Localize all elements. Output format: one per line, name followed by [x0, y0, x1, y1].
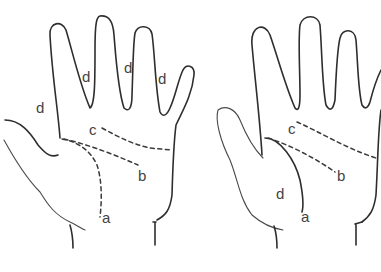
left-wrist-right — [153, 222, 156, 245]
left-wrist-left — [70, 225, 73, 248]
left-label-b: b — [138, 167, 146, 184]
left-label-c: c — [89, 121, 97, 138]
right-line-c — [297, 122, 376, 158]
right-label-d: d — [276, 185, 284, 202]
right-label-b: b — [337, 167, 345, 184]
left-label-d-finger-1: d — [82, 68, 90, 85]
right-wrist-right — [355, 222, 362, 245]
palm-lines-diagram: d d d d c b a c b d a — [0, 0, 381, 272]
left-label-d-finger-2: d — [124, 59, 132, 76]
left-line-b — [64, 139, 138, 165]
left-label-a: a — [102, 209, 111, 226]
left-hand: d d d d c b a — [4, 16, 194, 248]
left-hand-fingers-outline — [50, 16, 194, 220]
right-label-c: c — [288, 120, 296, 137]
left-label-d-thumb: d — [36, 99, 44, 116]
right-thumb-outline — [217, 108, 283, 230]
left-line-c — [102, 128, 172, 150]
left-line-a — [62, 139, 101, 217]
right-hand-fingers-outline — [252, 17, 381, 155]
right-label-a: a — [301, 208, 310, 225]
left-thumb-lower-outline — [4, 140, 85, 230]
right-hand: c b d a — [217, 17, 381, 248]
left-thumb-outline — [5, 120, 58, 156]
left-label-d-finger-3: d — [158, 70, 166, 87]
right-wrist-left — [274, 226, 277, 248]
right-hand-palm-edge — [362, 110, 381, 222]
